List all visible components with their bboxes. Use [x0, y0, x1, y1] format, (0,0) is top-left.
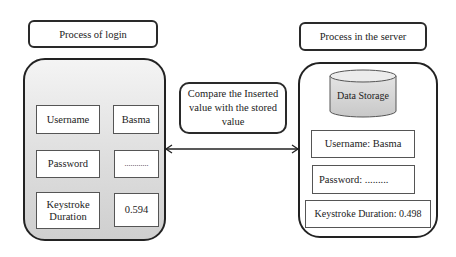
username-value: Basma: [122, 114, 151, 126]
stored-keystroke-box: Keystroke Duration: 0.498: [305, 200, 431, 228]
keystroke-label: Keystroke Duration: [40, 199, 96, 223]
server-process-title-text: Process in the server: [320, 31, 407, 42]
stored-password-box: Password: .........: [312, 165, 415, 194]
password-label: Password: [48, 158, 88, 170]
stored-keystroke: Keystroke Duration: 0.498: [315, 208, 422, 220]
keystroke-label-box: Keystroke Duration: [36, 192, 100, 229]
username-label: Username: [47, 114, 90, 126]
username-label-box: Username: [36, 105, 100, 134]
password-label-box: Password: [36, 150, 100, 178]
bidirectional-arrow-icon: [164, 143, 300, 155]
stored-username: Username: Basma: [325, 138, 402, 150]
login-process-title: Process of login: [28, 20, 158, 48]
data-storage-label: Data Storage: [328, 86, 398, 104]
username-value-box: Basma: [113, 105, 159, 134]
password-value-box: ............: [114, 150, 159, 178]
keystroke-value-box: 0.594: [114, 193, 159, 227]
stored-password: Password: .........: [319, 174, 388, 186]
server-process-title: Process in the server: [299, 22, 427, 51]
keystroke-value: 0.594: [125, 204, 149, 216]
stored-username-box: Username: Basma: [311, 130, 415, 158]
data-storage-text: Data Storage: [337, 90, 389, 101]
password-value: ............: [125, 158, 149, 170]
compare-text: Compare the Inserted value with the stor…: [185, 87, 281, 129]
login-process-title-text: Process of login: [59, 29, 127, 40]
compare-box: Compare the Inserted value with the stor…: [179, 82, 287, 134]
